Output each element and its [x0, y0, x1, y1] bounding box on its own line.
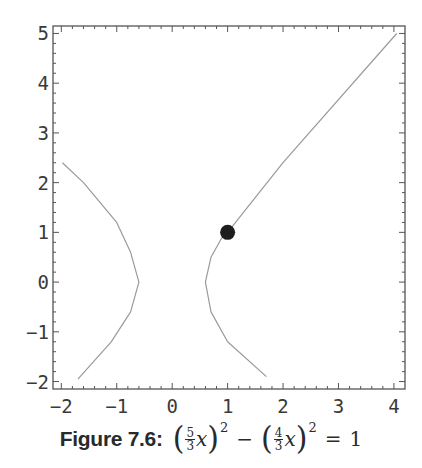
minus-sign: −	[236, 427, 253, 451]
y-tick-label: 0	[38, 271, 49, 293]
hyperbola-curves	[62, 34, 396, 380]
plot-border	[53, 26, 405, 389]
x-tick-label: 0	[166, 395, 177, 417]
variable-x: x	[196, 427, 207, 451]
right-branch	[205, 34, 396, 377]
denominator: 3	[275, 440, 283, 452]
left-branch	[62, 163, 138, 379]
right-paren: )	[296, 423, 308, 455]
fraction-four-thirds: 4 3	[274, 427, 284, 452]
x-axis-tick-labels: −2−101234	[50, 395, 400, 417]
equals-sign: =	[325, 427, 342, 451]
point-markers	[220, 225, 235, 240]
plot-frame	[53, 26, 405, 389]
left-paren: (	[261, 423, 273, 455]
variable-x: x	[284, 427, 295, 451]
denominator: 3	[186, 440, 194, 452]
x-tick-label: 1	[222, 395, 233, 417]
y-axis-tick-labels: 543210−1−2	[26, 22, 49, 392]
fraction-five-thirds: 5 3	[185, 427, 195, 452]
figure-caption: Figure 7.6: ( 5 3 x ) 2 − ( 4 3 x ) 2 = …	[0, 419, 422, 459]
x-tick-label: 4	[388, 395, 399, 417]
left-paren: (	[173, 423, 185, 455]
y-tick-label: 5	[38, 22, 49, 44]
hyperbola-plot: −2−101234 543210−1−2	[0, 0, 422, 468]
exponent: 2	[220, 420, 228, 435]
x-tick-label: −2	[50, 395, 73, 417]
highlighted-point	[220, 225, 235, 240]
caption-equation: ( 5 3 x ) 2 − ( 4 3 x ) 2 = 1	[173, 424, 363, 454]
numerator: 5	[185, 427, 195, 440]
axis-ticks	[53, 26, 405, 389]
x-tick-label: 3	[333, 395, 344, 417]
x-tick-label: 2	[277, 395, 288, 417]
y-tick-label: 3	[38, 122, 49, 144]
right-paren: )	[207, 423, 219, 455]
y-tick-label: −1	[26, 321, 49, 343]
numerator: 4	[274, 427, 284, 440]
y-tick-label: 2	[38, 172, 49, 194]
y-tick-label: 1	[38, 221, 49, 243]
y-tick-label: 4	[38, 72, 49, 94]
exponent: 2	[308, 420, 316, 435]
x-tick-label: −1	[105, 395, 128, 417]
y-tick-label: −2	[26, 371, 49, 393]
rhs-value: 1	[349, 427, 362, 451]
caption-label: Figure 7.6:	[60, 427, 163, 451]
